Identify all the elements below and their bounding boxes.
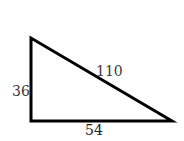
side-label-hypotenuse: 110 bbox=[96, 63, 123, 79]
right-triangle bbox=[31, 38, 172, 121]
triangle-diagram: 36 110 54 bbox=[0, 0, 184, 141]
side-label-left: 36 bbox=[12, 83, 30, 99]
side-label-bottom: 54 bbox=[85, 122, 103, 138]
